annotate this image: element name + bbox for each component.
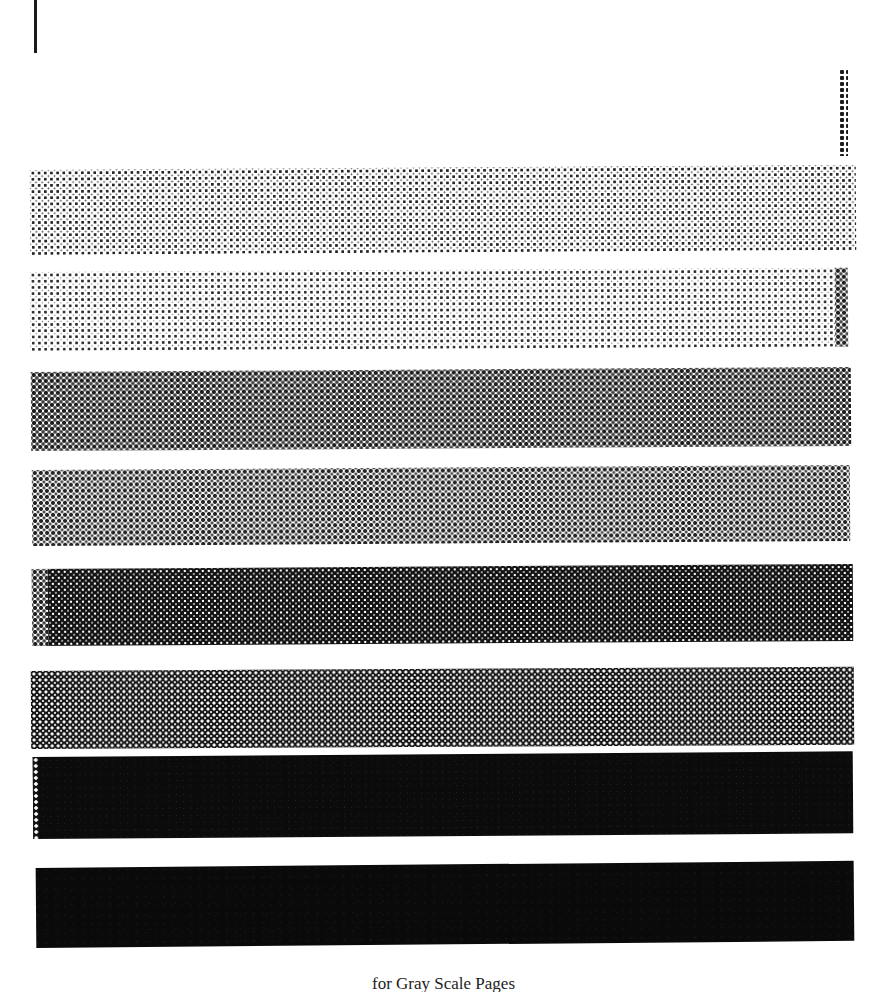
halftone-band-5 <box>32 564 853 646</box>
halftone-band-4 <box>32 465 850 546</box>
halftone-band-2 <box>30 268 848 351</box>
halftone-band-8 <box>36 861 855 948</box>
halftone-band-3 <box>31 367 851 451</box>
band-right-edge-strip <box>835 268 848 347</box>
caption-clip: for Gray Scale Pages <box>0 974 887 992</box>
page-edge-rule <box>34 0 37 53</box>
halftone-band-6 <box>31 667 854 749</box>
band-left-edge-strip <box>32 569 48 646</box>
scanned-page: for Gray Scale Pages <box>0 0 887 992</box>
halftone-band-7 <box>33 751 854 839</box>
band-left-edge-strip <box>33 757 40 839</box>
page-caption: for Gray Scale Pages <box>0 974 887 992</box>
halftone-band-1 <box>30 165 857 255</box>
corner-dot-strip <box>839 69 848 156</box>
